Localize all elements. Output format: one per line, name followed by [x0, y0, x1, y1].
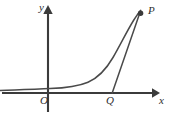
math-figure: y x O Q P [0, 0, 171, 117]
point-P-label: P [148, 5, 155, 16]
point-Q-label: Q [106, 95, 114, 106]
y-axis-arrow-icon [43, 5, 52, 14]
exponential-curve [0, 10, 141, 90]
y-axis-label: y [39, 2, 44, 13]
origin-label: O [40, 95, 48, 106]
point-P-dot [138, 11, 143, 16]
figure-canvas [0, 0, 171, 117]
x-axis-label: x [159, 95, 164, 106]
